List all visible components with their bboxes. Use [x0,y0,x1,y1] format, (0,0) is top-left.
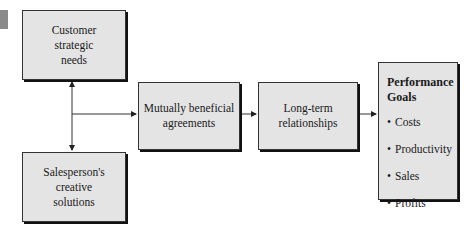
goal-item-productivity: Productivity [387,142,457,157]
node-text: strategic [52,38,97,53]
node-text: Customer [52,23,97,38]
salesperson-solutions-box: Salesperson's creative solutions [22,152,126,222]
node-text: creative [43,180,104,195]
node-text: needs [52,53,97,68]
customer-needs-box: Customer strategic needs [22,10,126,80]
title-line: Performance [387,75,457,90]
node-text: solutions [43,195,104,210]
performance-goals-title: Performance Goals [387,75,457,105]
goal-item-profits: Profits [387,196,457,211]
long-term-relationships-box: Long-term relationships [258,82,358,150]
node-text: relationships [279,116,338,131]
node-text: agreements [144,116,234,131]
node-text: Long-term [279,101,338,116]
node-text: Salesperson's [43,165,104,180]
node-text: Mutually beneficial [144,101,234,116]
goal-item-sales: Sales [387,169,457,184]
performance-goals-box: Performance Goals Costs Productivity Sal… [378,62,458,200]
title-line: Goals [387,90,457,105]
mutual-agreements-box: Mutually beneficial agreements [138,82,240,150]
goal-item-costs: Costs [387,115,457,130]
